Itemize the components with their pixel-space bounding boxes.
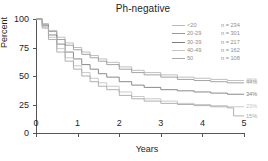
- x-tick-mark: [119, 134, 120, 137]
- x-tick-mark: [78, 134, 79, 137]
- legend-sample-size: n = 162: [221, 46, 240, 54]
- legend-line-swatch: [172, 25, 185, 26]
- legend-row: <20n = 234: [172, 21, 266, 29]
- legend-line-swatch: [172, 42, 185, 43]
- x-tick-label: 5: [241, 118, 246, 128]
- legend-row: 40-49n = 162: [172, 46, 266, 54]
- legend: <20n = 23420-29n = 30130-39n = 21740-49n…: [172, 21, 266, 62]
- x-tick-mark: [161, 134, 162, 137]
- legend-line-swatch: [172, 50, 185, 51]
- legend-row: 30-39n = 217: [172, 38, 266, 46]
- y-tick-label: 25: [19, 100, 29, 110]
- curve-end-label: 23%: [246, 103, 257, 109]
- x-tick-label: 3: [158, 118, 163, 128]
- curve-end-label: 15%: [246, 113, 257, 119]
- legend-sample-size: n = 108: [221, 54, 240, 62]
- x-tick-label: 2: [117, 118, 122, 128]
- legend-label: <20: [187, 21, 197, 29]
- kaplan-meier-figure: Ph-negative Percent Years 0255075100 <20…: [0, 0, 268, 161]
- legend-label: 30-39: [187, 38, 201, 46]
- y-axis-title: Percent: [0, 17, 9, 48]
- legend-label: 40-49: [187, 46, 201, 54]
- legend-sample-size: n = 217: [221, 38, 240, 46]
- x-tick-mark: [244, 134, 245, 137]
- y-tick-label: 50: [19, 71, 29, 81]
- x-tick-label: 4: [200, 118, 205, 128]
- legend-row: 20-29n = 301: [172, 29, 266, 37]
- legend-line-swatch: [172, 33, 185, 34]
- y-tick-label: 100: [14, 14, 29, 24]
- x-tick-label: 1: [75, 118, 80, 128]
- x-axis-title: Years: [0, 144, 268, 154]
- x-tick-label: 0: [33, 118, 38, 128]
- x-tick-mark: [202, 134, 203, 137]
- legend-line-swatch: [172, 58, 185, 59]
- legend-row: 50n = 108: [172, 54, 266, 62]
- x-axis-line: [36, 133, 245, 134]
- y-tick-label: 0: [24, 128, 29, 138]
- x-tick-mark: [36, 134, 37, 137]
- chart-title: Ph-negative: [0, 3, 268, 14]
- legend-label: 20-29: [187, 29, 201, 37]
- legend-sample-size: n = 301: [221, 29, 240, 37]
- curve-end-label: 44%: [246, 79, 257, 85]
- y-tick-label: 75: [19, 43, 29, 53]
- legend-sample-size: n = 234: [221, 21, 240, 29]
- curve-end-label: 34%: [246, 91, 257, 97]
- legend-label: 50: [187, 54, 193, 62]
